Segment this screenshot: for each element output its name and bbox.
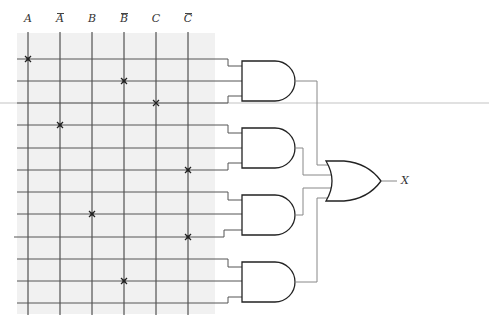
wire-and1-to-or (295, 81, 330, 165)
array-shading (17, 33, 215, 314)
input-label-c: C (146, 13, 166, 26)
or-gate (326, 161, 381, 201)
and-gate-1 (242, 61, 295, 101)
input-label-b: B (82, 13, 102, 26)
wire-and4-to-or (295, 198, 330, 282)
and-gate-2 (242, 128, 295, 168)
output-label-x: X (401, 174, 409, 187)
input-label-a: A (18, 13, 38, 26)
or-input-wires (295, 81, 333, 282)
input-label-b-not: B (114, 13, 134, 26)
pla-diagram (0, 0, 489, 329)
and-gates (242, 61, 295, 302)
input-label-a-not: A (50, 13, 70, 26)
and-gate-3 (242, 195, 295, 235)
and-gate-4 (242, 262, 295, 302)
input-label-c-not: C (178, 13, 198, 26)
